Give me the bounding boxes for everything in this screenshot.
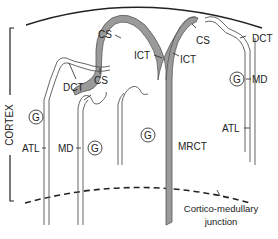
glomerulus-left: G [88, 141, 102, 155]
label-md-left: MD [58, 143, 74, 154]
label-md-right: MD [252, 74, 268, 85]
label-cs-mid: CS [94, 75, 108, 86]
label-cs-top: CS [98, 29, 112, 40]
glomerulus-right: G [230, 72, 244, 86]
collecting-duct-main [73, 15, 198, 225]
label-atl-right: ATL [222, 123, 240, 134]
diagram-svg: CORTEX G G G G [0, 0, 278, 239]
corticomedullary-line [25, 188, 250, 204]
svg-text:G: G [32, 112, 40, 123]
label-ict-right: ICT [180, 54, 196, 65]
label-mrct: MRCT [178, 141, 207, 152]
label-cs-right: CS [196, 35, 210, 46]
nephron-tubules [44, 17, 255, 225]
label-dct-right: DCT [252, 33, 273, 44]
cortex-label: CORTEX [4, 104, 15, 146]
label-ict-left: ICT [134, 50, 150, 61]
svg-text:G: G [91, 143, 99, 154]
label-atl-left: ATL [22, 143, 40, 154]
glomerulus-far-left: G [29, 110, 43, 124]
nephron-diagram: CORTEX G G G G [0, 0, 278, 239]
glomerulus-middle: G [141, 128, 155, 142]
svg-text:G: G [144, 130, 152, 141]
label-dct-left: DCT [63, 82, 84, 93]
junction-caption-line1: Cortico-medullary [184, 203, 259, 214]
junction-caption-line2: junction [204, 216, 238, 227]
svg-text:G: G [233, 74, 241, 85]
